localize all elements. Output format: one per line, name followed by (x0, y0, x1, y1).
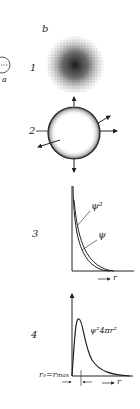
subfigure-number-4: 4 (31, 330, 37, 340)
partial-circle-fragment (0, 57, 10, 73)
rmax-subscript: max (57, 371, 70, 378)
subfigure-number-3: 3 (32, 229, 38, 239)
r0-text: r₀=r (39, 370, 57, 379)
electron-cloud (46, 36, 104, 94)
label-a: a (2, 76, 7, 84)
axis-label-r-3: r (113, 274, 117, 282)
subfigure-number-2: 2 (29, 126, 35, 136)
radial-distribution-plot (62, 294, 133, 386)
panel-label-b: b (42, 24, 48, 34)
axis-label-r-4: r (117, 378, 121, 386)
label-psi-squared: ψ² (91, 201, 103, 211)
label-radial-probability: ψ²4πr² (90, 327, 117, 335)
subfigure-number-1: 1 (30, 63, 36, 73)
label-psi: ψ (98, 230, 106, 240)
boundary-sphere (36, 107, 117, 172)
label-r0-rmax: r₀=rmax (39, 371, 69, 379)
figure-canvas (0, 0, 140, 409)
